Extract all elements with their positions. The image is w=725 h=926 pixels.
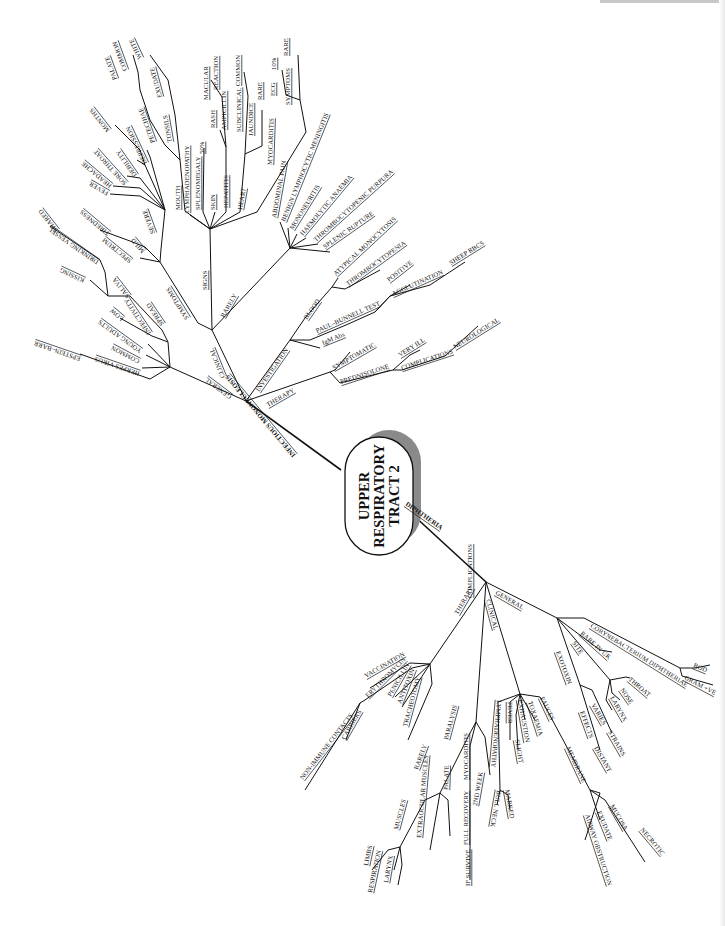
node-label-im-pred[interactable]: PREDNISOLONE: [339, 363, 390, 385]
node-label-im-heart[interactable]: HEART: [236, 187, 247, 210]
node-label-im-50[interactable]: 50%: [198, 141, 205, 154]
node-label-im-subclinical[interactable]: SUBCLINICAL: [235, 87, 242, 132]
node-label-im-jaundice[interactable]: JAUNDICE: [247, 103, 254, 136]
label-underline: [318, 306, 381, 334]
node-label-im-rare[interactable]: RARE: [256, 82, 263, 100]
node-label-d-rod[interactable]: ROD: [693, 661, 709, 673]
node-label-im-paul[interactable]: PAUL–BUNNELL TEST: [315, 299, 381, 334]
node-label-im-10[interactable]: 10%: [270, 57, 277, 70]
node-label-im-reaction[interactable]: REACTION: [212, 56, 219, 90]
node-label-d-effects[interactable]: EFFECTS: [579, 710, 595, 739]
node-label-d-clinical[interactable]: CLINICAL: [485, 598, 500, 630]
node-label-im-months[interactable]: MONTHS: [88, 107, 111, 134]
node-label-im-severe[interactable]: SEVERE: [141, 209, 156, 235]
node-label-im-exudate[interactable]: EXUDATE: [148, 67, 163, 99]
node-label-im-spleno[interactable]: SPLENOMEGALY: [194, 156, 201, 210]
label-underline: [450, 766, 451, 791]
node-label-im-rare2[interactable]: RARE: [282, 38, 289, 56]
node-label-im-ecg[interactable]: ECG: [269, 82, 276, 96]
node-label-d-myo[interactable]: MYOCARDITIS: [462, 733, 469, 780]
node-label-im-signs[interactable]: SIGNS: [201, 270, 208, 290]
node-label-d-therapy[interactable]: THERAPY: [453, 585, 475, 616]
node-label-d-fever[interactable]: FEVER: [507, 702, 514, 724]
node-label-im-lymph[interactable]: LYMPHADENOPATHY: [183, 145, 190, 213]
node-label-d-fauces[interactable]: FAUCES: [539, 695, 556, 721]
node-label-d-membrane[interactable]: MEMBRANE: [565, 745, 588, 783]
node-label-im-ampicillin[interactable]: AMPICILLIN: [220, 91, 227, 130]
node-label-im-ebv[interactable]: EPSTEIN–BARR: [32, 340, 81, 363]
node-label-im-white[interactable]: WHITE: [127, 38, 143, 61]
node-label-d-necrotic[interactable]: NECROTIC: [639, 826, 666, 857]
node-label-d-muscles[interactable]: MUSCLES: [392, 798, 407, 830]
node-label-im-rash[interactable]: RASH: [209, 110, 216, 128]
node-label-d-strains[interactable]: STRAINS: [607, 729, 627, 757]
center-line-3: TRACT 2: [386, 465, 402, 526]
center-line-2: RESPIRATORY: [371, 444, 387, 548]
node-label-d-paralysis[interactable]: PARALYSIS: [442, 704, 458, 740]
node-label-im-shared[interactable]: SHARED: [37, 208, 59, 234]
node-label-im-hepatitis[interactable]: HEPATITIS: [222, 175, 229, 208]
node-label-im-macular[interactable]: MACULAR: [202, 66, 209, 100]
central-topic-node[interactable]: UPPER RESPIRATORY TRACT 2: [345, 430, 421, 555]
center-line-1: UPPER: [356, 471, 372, 520]
node-label-d-palate[interactable]: PALATE: [442, 765, 450, 790]
node-label-d-fullrec[interactable]: FULL RECOVERY: [462, 791, 469, 845]
label-underline: [304, 717, 354, 781]
node-label-d-ifsurvive[interactable]: IF SURVIVE: [464, 849, 471, 886]
node-label-d-mucosa[interactable]: MUCOSA: [609, 803, 630, 832]
node-label-im-positive[interactable]: POSITIVE: [385, 259, 413, 283]
node-label-im-sheep[interactable]: SHEEP RBCS: [448, 239, 485, 266]
node-label-d-distant[interactable]: DISTANT: [593, 745, 613, 773]
node-label-im-palate[interactable]: PALATE: [103, 56, 118, 81]
page-edge-shadow: [719, 0, 725, 926]
node-label-im-igm[interactable]: IgM Abs: [321, 330, 346, 346]
node-label-im-tiredness[interactable]: TIREDNESS: [78, 209, 111, 238]
node-label-d-nonimmune[interactable]: NON-IMMUNE CONTACTS: [298, 712, 354, 781]
node-label-im-symptomatic[interactable]: SYMPTOMATIC: [331, 340, 377, 370]
node-label-im-skin[interactable]: SKIN: [209, 194, 216, 210]
node-label-im-symptoms2[interactable]: SYMPTOMS: [284, 68, 291, 105]
node-label-im-common3[interactable]: COMMON: [234, 55, 241, 86]
node-label-im-mouth[interactable]: MOUTH: [174, 185, 181, 210]
node-label-im-spectrum[interactable]: SPECTRUM: [101, 237, 133, 265]
mind-map: UPPER RESPIRATORY TRACT 2 INFECTIOUS MON…: [0, 0, 725, 926]
node-label-im-myocarditis[interactable]: MYOCARDITIS: [266, 118, 275, 165]
node-label-im-investigation[interactable]: INVESTIGATION: [254, 346, 289, 392]
node-label-im-thrombocytopenia[interactable]: THROMBOCYTOPENIA: [344, 239, 406, 287]
node-label-im-neuro[interactable]: NEUROLOGICAL: [452, 316, 501, 350]
